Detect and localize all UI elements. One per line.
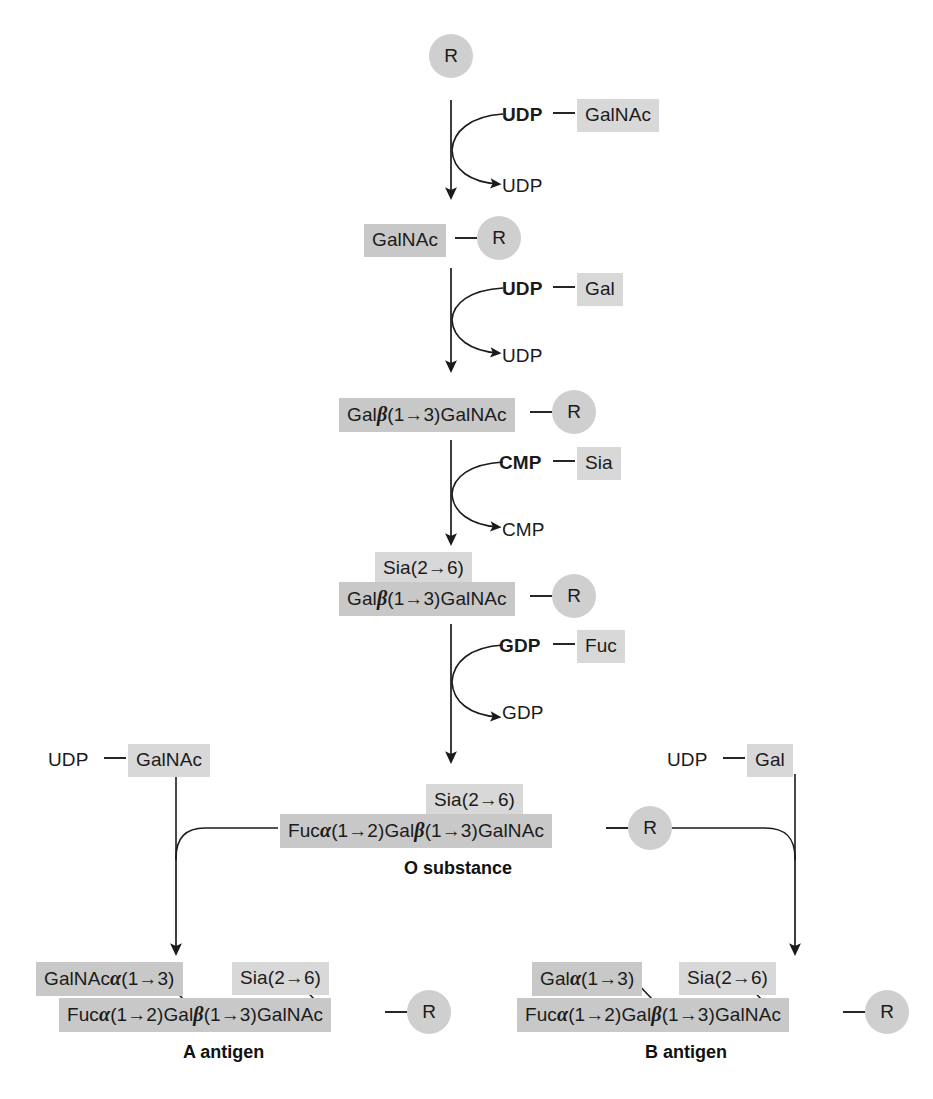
core-r-node-row3: R [552,574,596,618]
step4-donor-sugar: Fuc [577,630,625,663]
step3-donor-nucleotide: CMP [497,447,544,480]
step3-released: CMP [500,514,547,547]
o-substance-branch-sia: Sia(2→6) [426,784,523,817]
core-r-node-row1: R [477,216,521,260]
branch-left-donor-nucleotide: UDP [46,744,90,777]
row1-sugar-galnac: GalNAc [364,224,446,257]
step4-released: GDP [500,697,545,730]
branch-left-donor-sugar: GalNAc [128,744,210,777]
connector-layer [0,0,933,1099]
row3-chain: Galβ(1→3)GalNAc [339,582,515,616]
o-substance-chain: Fucα(1→2)Galβ(1→3)GalNAc [280,814,552,848]
step2-donor-sugar: Gal [577,273,623,306]
b-antigen-branch-sia: Sia(2→6) [679,962,776,995]
core-r-node-b-antigen: R [865,990,909,1034]
a-antigen-branch-sia: Sia(2→6) [232,962,329,995]
b-antigen-added-sugar: Galα(1→3) [532,962,642,996]
step2-donor-nucleotide: UDP [500,273,544,306]
row2-chain-text: Galβ(1→3)GalNAc [347,404,507,425]
b-antigen-caption: B antigen [645,1042,727,1063]
a-antigen-chain-text: Fucα(1→2)Galβ(1→3)GalNAc [67,1004,323,1025]
a-antigen-chain: Fucα(1→2)Galβ(1→3)GalNAc [59,998,331,1032]
step1-donor-nucleotide: UDP [500,99,544,132]
a-antigen-added-sugar: GalNAcα(1→3) [36,962,183,996]
core-r-node-start: R [429,34,473,78]
step2-released: UDP [500,340,544,373]
b-antigen-chain: Fucα(1→2)Galβ(1→3)GalNAc [517,998,789,1032]
step4-donor-nucleotide: GDP [497,630,542,663]
step1-released: UDP [500,170,544,203]
o-substance-caption: O substance [404,858,512,879]
b-antigen-chain-text: Fucα(1→2)Galβ(1→3)GalNAc [525,1004,781,1025]
step3-donor-sugar: Sia [577,447,621,480]
figure-canvas: R UDP GalNAc UDP GalNAc R UDP Gal UDP Ga… [0,0,933,1099]
core-r-node-a-antigen: R [407,990,451,1034]
branch-right-donor-sugar: Gal [747,744,793,777]
core-r-node-row2: R [552,390,596,434]
a-antigen-caption: A antigen [183,1042,264,1063]
step1-donor-sugar: GalNAc [577,99,659,132]
o-substance-chain-text: Fucα(1→2)Galβ(1→3)GalNAc [288,820,544,841]
row3-branch-sia: Sia(2→6) [375,552,472,585]
row2-chain: Galβ(1→3)GalNAc [339,398,515,432]
row3-chain-text: Galβ(1→3)GalNAc [347,588,507,609]
branch-right-donor-nucleotide: UDP [665,744,709,777]
core-r-node-o-substance: R [628,806,672,850]
